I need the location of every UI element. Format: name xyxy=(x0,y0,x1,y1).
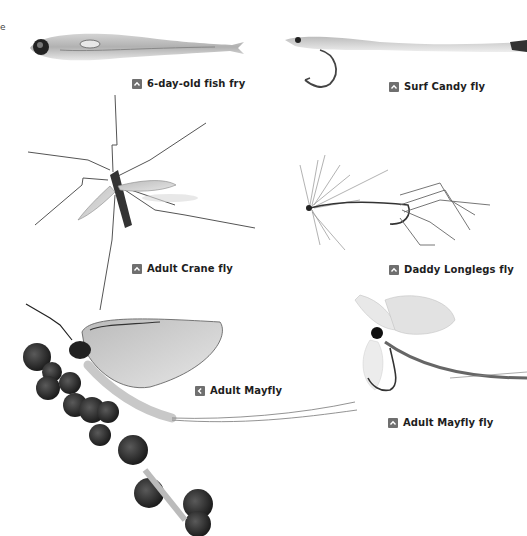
caption-text: Adult Crane fly xyxy=(147,263,233,274)
mayfly-fly-image xyxy=(355,295,527,390)
arrow-up-icon xyxy=(389,265,399,275)
daddy-longlegs-image xyxy=(300,155,490,250)
surf-candy-image xyxy=(285,37,527,87)
mayfly-image xyxy=(23,304,357,536)
caption-fish-fry: 6-day-old fish fry xyxy=(132,78,245,89)
caption-mayfly: Adult Mayfly xyxy=(195,385,282,396)
fish-fry-image xyxy=(30,34,244,61)
caption-text: Adult Mayfly xyxy=(210,385,282,396)
caption-text: Surf Candy fly xyxy=(404,81,485,92)
caption-crane-fly: Adult Crane fly xyxy=(132,263,233,274)
caption-daddy-longlegs: Daddy Longlegs fly xyxy=(389,264,514,275)
caption-text: 6-day-old fish fry xyxy=(147,78,245,89)
crane-fly-image xyxy=(28,95,255,310)
caption-surf-candy: Surf Candy fly xyxy=(389,81,485,92)
caption-text: Daddy Longlegs fly xyxy=(404,264,514,275)
arrow-up-icon xyxy=(132,79,142,89)
arrow-up-icon xyxy=(132,264,142,274)
arrow-left-icon xyxy=(195,386,205,396)
arrow-up-icon xyxy=(389,82,399,92)
arrow-up-icon xyxy=(388,418,398,428)
caption-text: Adult Mayfly fly xyxy=(403,417,493,428)
caption-mayfly-fly: Adult Mayfly fly xyxy=(388,417,493,428)
